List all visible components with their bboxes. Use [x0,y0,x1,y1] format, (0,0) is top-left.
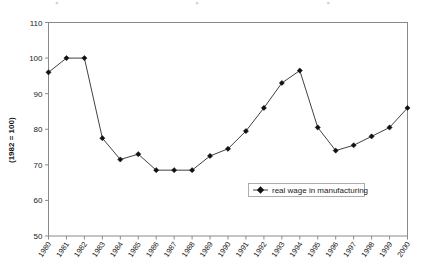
data-point-marker [172,168,177,173]
x-axis-tick-label: 1993 [270,240,287,259]
x-axis-tick-label: 1986 [144,240,161,259]
x-axis-tick-label: 1998 [359,240,376,259]
plot-frame [49,23,408,237]
legend-label: real wage in manufacturing [272,186,368,195]
y-axis-tick-label: 100 [29,54,43,63]
x-axis-tick-label: 1995 [305,240,322,259]
x-axis-tick-label: 2000 [395,240,412,259]
data-series-real-wage [46,55,410,172]
x-axis-tick-label: 1985 [126,240,143,259]
chart-container: ▪ ▪ ▪ 5060708090100110 (1982 = 100) 1980… [0,0,421,278]
y-axis-tick-label: 50 [34,232,43,241]
y-axis: 5060708090100110 [29,19,48,242]
x-axis-tick-label: 1991 [234,240,251,259]
y-axis-title: (1982 = 100) [7,117,16,163]
x-axis-tick-label: 1990 [216,240,233,259]
x-axis-tick-label: 1987 [162,240,179,259]
y-axis-tick-label: 90 [34,90,43,99]
x-axis-tick-label: 1982 [72,240,89,259]
x-axis-tick-label: 1994 [287,240,304,259]
y-axis-tick-label: 80 [34,125,43,134]
x-axis: 1980198119821983198419851986198719881989… [36,236,412,259]
x-axis-tick-label: 1996 [323,240,340,259]
chart-legend[interactable]: real wage in manufacturing [249,184,369,197]
data-point-marker [369,134,374,139]
y-axis-tick-label: 60 [34,196,43,205]
y-axis-tick-label: 70 [34,161,43,170]
y-axis-tick-label: 110 [30,19,43,28]
x-axis-tick-label: 1992 [252,240,269,259]
x-axis-tick-label: 1981 [54,240,71,259]
x-axis-tick-label: 1983 [90,240,107,259]
x-axis-tick-label: 1988 [180,240,197,259]
x-axis-tick-label: 1989 [198,240,215,259]
top-edge-artifact: ▪ ▪ ▪ [0,0,421,10]
x-axis-tick-label: 1997 [341,240,358,259]
x-axis-tick-label: 1984 [108,240,125,259]
data-point-marker [82,55,87,60]
data-point-marker [351,143,356,148]
data-point-marker [297,68,302,73]
series-polyline [49,58,408,170]
x-axis-tick-label: 1999 [377,240,394,259]
line-chart-plot: 5060708090100110 (1982 = 100) 1980198119… [0,0,421,278]
x-axis-tick-label: 1980 [36,240,53,259]
